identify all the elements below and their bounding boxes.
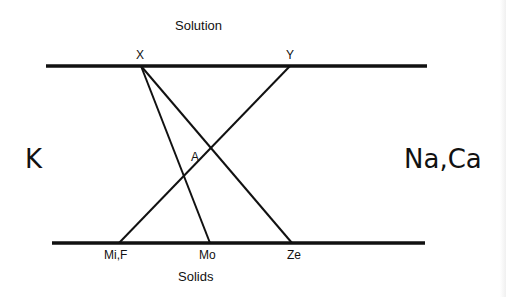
page-edge <box>500 0 506 297</box>
point-label-y: Y <box>286 49 294 61</box>
solids-label: Solids <box>178 270 213 283</box>
point-label-mo: Mo <box>199 249 216 261</box>
right-label-na-ca: Na,Ca <box>404 146 482 172</box>
intersection-label-a: A <box>191 151 199 163</box>
left-label-k: K <box>25 146 42 172</box>
solution-label: Solution <box>175 19 222 32</box>
tie-line-y-mif <box>119 66 290 243</box>
point-label-ze: Ze <box>287 249 301 261</box>
point-label-mi-f: Mi,F <box>104 249 127 261</box>
tie-line-x-mo <box>141 66 210 243</box>
point-label-x: X <box>136 49 144 61</box>
tie-line-x-ze <box>141 66 292 243</box>
